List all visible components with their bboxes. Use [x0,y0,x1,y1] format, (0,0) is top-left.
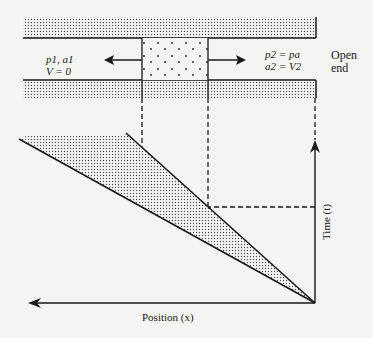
wave-diagram [0,0,373,338]
expansion-region [142,38,208,80]
left-state-line2: V = 0 [46,65,74,77]
position-axis [28,298,315,308]
right-state-label: p2 = pa a2 = V2 [265,48,301,72]
right-state-line1: p2 = pa [265,48,301,60]
time-axis [310,140,320,303]
right-arrow-icon [208,55,246,65]
open-end-line2: end [331,62,357,75]
open-end-label: Open end [331,49,357,75]
x-axis-label: Position (x) [142,311,194,323]
t-axis-label: Time (t) [320,204,332,240]
left-arrow-icon [104,55,142,65]
bottom-wall [23,80,316,98]
left-state-label: p1, a1 V = 0 [46,53,74,77]
top-wall [23,17,316,38]
left-state-line1: p1, a1 [46,53,74,65]
right-state-line2: a2 = V2 [265,60,301,72]
